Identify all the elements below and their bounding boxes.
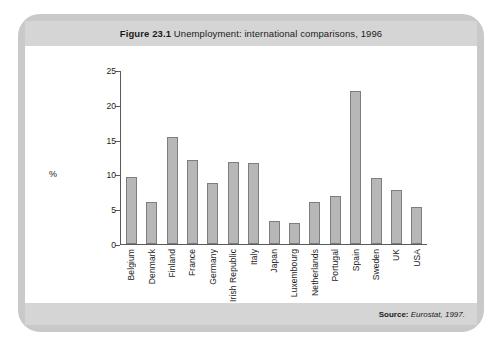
bar-slot	[203, 71, 223, 244]
x-axis-label: Germany	[208, 249, 218, 285]
x-axis-label: Italy	[249, 249, 259, 265]
figure-source: Source: Eurostat, 1997.	[379, 310, 465, 319]
plot-area: 0510152025	[120, 71, 427, 245]
bar-slot	[284, 71, 304, 244]
bar	[126, 177, 137, 244]
bar	[228, 162, 239, 244]
bar	[350, 91, 361, 244]
y-axis-tick-label: 10	[107, 170, 116, 180]
bar	[146, 202, 157, 244]
bar-slot	[121, 71, 141, 244]
bar-slot	[162, 71, 182, 244]
x-axis-label: Sweden	[371, 249, 381, 280]
bar	[411, 207, 422, 244]
bar-slot	[366, 71, 386, 244]
x-axis-label: Denmark	[147, 249, 157, 284]
bar	[187, 160, 198, 244]
bar-slot	[345, 71, 365, 244]
figure-title-band: Figure 23.1 Unemployment: international …	[25, 21, 477, 46]
x-axis-label: France	[187, 249, 197, 276]
y-axis-tick-label: 20	[107, 101, 116, 111]
bar	[391, 190, 402, 244]
y-axis-tick-label: 15	[107, 136, 116, 146]
bar	[269, 221, 280, 244]
bar	[330, 196, 341, 244]
source-label: Source:	[379, 310, 409, 319]
bar	[248, 163, 259, 244]
figure-title: Figure 23.1 Unemployment: international …	[120, 28, 382, 39]
bar-slot	[325, 71, 345, 244]
x-axis-line	[120, 244, 427, 245]
x-axis-label: Portugal	[330, 249, 340, 281]
bar-slot	[141, 71, 161, 244]
y-axis-title: %	[49, 169, 57, 179]
bar-slot	[243, 71, 263, 244]
x-axis-label: Irish Republic	[228, 249, 238, 302]
figure-caption: Unemployment: international comparisons,…	[174, 28, 382, 39]
x-axis-label: Spain	[351, 249, 361, 271]
bar-series	[121, 71, 427, 244]
x-axis-label: UK	[391, 249, 401, 261]
y-axis-tick-label: 25	[107, 66, 116, 76]
source-value: Eurostat, 1997.	[411, 310, 465, 319]
bar-slot	[182, 71, 202, 244]
x-axis-label: Japan	[269, 249, 279, 273]
figure-frame: Figure 23.1 Unemployment: international …	[18, 14, 484, 332]
bar	[309, 202, 320, 244]
y-axis-tick-label: 5	[111, 205, 116, 215]
x-axis-label: USA	[412, 249, 422, 267]
figure-source-band: Source: Eurostat, 1997.	[25, 303, 477, 325]
figure-number: Figure 23.1	[120, 28, 171, 39]
bar-slot	[264, 71, 284, 244]
x-axis-label: Luxembourg	[289, 249, 299, 297]
bar-slot	[407, 71, 427, 244]
y-axis-tick-label: 0	[111, 240, 116, 250]
bar	[371, 178, 382, 244]
bar	[167, 137, 178, 244]
x-axis-label: Belgium	[126, 249, 136, 280]
x-axis-label: Netherlands	[310, 249, 320, 296]
x-axis-label: Finland	[167, 249, 177, 278]
bar-slot	[305, 71, 325, 244]
bar-slot	[386, 71, 406, 244]
bar-slot	[223, 71, 243, 244]
bar	[289, 223, 300, 244]
bar	[207, 183, 218, 244]
